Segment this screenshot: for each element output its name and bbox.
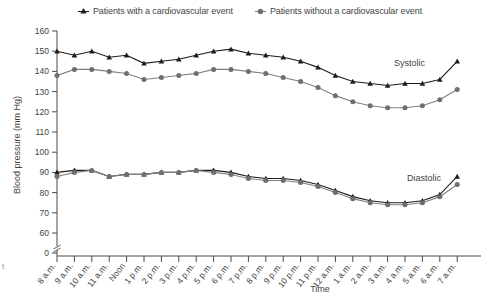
circle-marker bbox=[316, 85, 321, 90]
data-series-layer bbox=[54, 46, 460, 207]
circle-marker bbox=[281, 178, 286, 183]
circle-marker bbox=[142, 172, 147, 177]
circle-marker-icon bbox=[255, 7, 266, 16]
circle-marker bbox=[124, 172, 129, 177]
y-tick-label: 100 bbox=[35, 147, 49, 157]
chart-legend: Patients with a cardiovascular event Pat… bbox=[0, 6, 500, 16]
circle-marker bbox=[403, 105, 408, 110]
data-series bbox=[55, 168, 460, 207]
chart-plot-area: 060708090100110120130140150160 Blood pre… bbox=[0, 0, 500, 300]
circle-marker bbox=[159, 170, 164, 175]
y-tick-label: 80 bbox=[40, 188, 50, 198]
triangle-marker bbox=[454, 174, 460, 179]
y-tick-label: 60 bbox=[40, 228, 50, 238]
circle-marker bbox=[89, 168, 94, 173]
circle-marker bbox=[437, 97, 442, 102]
circle-marker bbox=[211, 67, 216, 72]
diastolic-group-label: Diastolic bbox=[407, 173, 442, 183]
y-axis-title: Blood pressure (mm Hg) bbox=[12, 96, 22, 194]
x-axis-title: Time bbox=[310, 284, 330, 294]
y-axis: 060708090100110120130140150160 Blood pre… bbox=[12, 26, 61, 258]
circle-marker bbox=[89, 67, 94, 72]
blood-pressure-chart-figure: Patients with a cardiovascular event Pat… bbox=[0, 0, 500, 300]
circle-marker bbox=[263, 71, 268, 76]
triangle-marker-icon bbox=[78, 7, 89, 16]
circle-marker bbox=[72, 170, 77, 175]
circle-marker bbox=[350, 99, 355, 104]
triangle-marker bbox=[89, 48, 95, 53]
data-series bbox=[55, 67, 460, 110]
circle-marker bbox=[420, 103, 425, 108]
x-axis: 8 a.m.9 a.m.10 a.m.11 a.m.Noon1 p.m.2 p.… bbox=[35, 256, 481, 294]
legend-label-without-event: Patients without a cardiovascular event bbox=[270, 6, 422, 16]
circle-marker bbox=[72, 67, 77, 72]
circle-marker bbox=[403, 202, 408, 207]
systolic-group-label: Systolic bbox=[394, 58, 426, 68]
y-tick-label: 140 bbox=[35, 66, 49, 76]
y-tick-label: 150 bbox=[35, 46, 49, 56]
circle-marker bbox=[107, 69, 112, 74]
circle-marker bbox=[385, 105, 390, 110]
y-tick-label: 160 bbox=[35, 26, 49, 36]
circle-marker bbox=[229, 172, 234, 177]
circle-marker bbox=[437, 194, 442, 199]
circle-marker bbox=[142, 77, 147, 82]
circle-marker bbox=[246, 69, 251, 74]
circle-marker bbox=[55, 73, 60, 78]
circle-marker bbox=[368, 200, 373, 205]
circle-marker bbox=[176, 73, 181, 78]
circle-marker bbox=[316, 184, 321, 189]
circle-marker bbox=[281, 75, 286, 80]
circle-marker bbox=[55, 174, 60, 179]
circle-marker bbox=[333, 190, 338, 195]
circle-marker bbox=[333, 93, 338, 98]
circle-marker bbox=[298, 180, 303, 185]
y-tick-label: 130 bbox=[35, 87, 49, 97]
triangle-marker bbox=[454, 59, 460, 64]
corner-mark: t bbox=[2, 262, 4, 271]
circle-marker bbox=[368, 103, 373, 108]
circle-marker bbox=[107, 174, 112, 179]
y-tick-label: 90 bbox=[40, 167, 50, 177]
x-tick-label: 7 a.m. bbox=[435, 261, 457, 286]
circle-marker bbox=[194, 168, 199, 173]
circle-marker bbox=[385, 202, 390, 207]
data-series bbox=[54, 168, 460, 205]
legend-item-without-event: Patients without a cardiovascular event bbox=[255, 6, 422, 16]
circle-marker bbox=[350, 196, 355, 201]
circle-marker bbox=[420, 200, 425, 205]
circle-marker bbox=[455, 87, 460, 92]
circle-marker bbox=[298, 79, 303, 84]
triangle-marker bbox=[333, 73, 339, 78]
y-tick-label: 70 bbox=[40, 208, 50, 218]
legend-label-with-event: Patients with a cardiovascular event bbox=[93, 6, 233, 16]
circle-marker bbox=[124, 71, 129, 76]
circle-marker bbox=[246, 176, 251, 181]
circle-marker bbox=[455, 182, 460, 187]
y-tick-label: 110 bbox=[35, 127, 49, 137]
circle-marker bbox=[229, 67, 234, 72]
y-tick-label: 120 bbox=[35, 107, 49, 117]
circle-marker bbox=[159, 75, 164, 80]
circle-marker bbox=[263, 178, 268, 183]
circle-marker bbox=[211, 170, 216, 175]
y-tick-label: 0 bbox=[44, 248, 49, 258]
circle-marker bbox=[194, 71, 199, 76]
legend-item-with-event: Patients with a cardiovascular event bbox=[78, 6, 233, 16]
circle-marker bbox=[176, 170, 181, 175]
